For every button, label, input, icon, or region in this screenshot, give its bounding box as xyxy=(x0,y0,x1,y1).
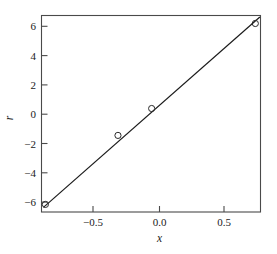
x-tick-labels: −0.5 0.0 0.5 xyxy=(83,216,231,228)
x-axis-ticks xyxy=(93,206,224,212)
y-tick-label: −6 xyxy=(24,196,36,208)
y-tick-label: 4 xyxy=(31,50,37,62)
y-tick-label: −2 xyxy=(24,138,36,150)
fitted-line xyxy=(43,17,259,207)
data-point xyxy=(115,132,121,138)
chart-figure: 6 4 2 0 −2 −4 −6 −0.5 0.0 0.5 x r xyxy=(0,0,277,254)
y-tick-label: 6 xyxy=(31,20,37,32)
x-tick-label: −0.5 xyxy=(83,216,103,228)
y-tick-label: 0 xyxy=(31,108,37,120)
x-tick-label: 0.5 xyxy=(217,216,231,228)
y-tick-label: 2 xyxy=(31,79,37,91)
x-tick-label: 0.0 xyxy=(153,216,167,228)
scatter-plot: 6 4 2 0 −2 −4 −6 −0.5 0.0 0.5 x r xyxy=(0,0,277,254)
y-axis-ticks xyxy=(42,26,48,202)
y-tick-label: −4 xyxy=(24,167,36,179)
x-axis-label: x xyxy=(156,232,163,244)
y-axis-label: r xyxy=(3,115,15,120)
y-tick-labels: 6 4 2 0 −2 −4 −6 xyxy=(24,20,36,208)
data-point xyxy=(149,105,155,111)
